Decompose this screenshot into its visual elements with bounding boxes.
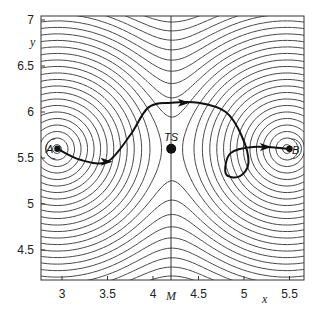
- contour-chart: 33.544.555.54.555.566.57 y x M A TS B: [0, 0, 319, 314]
- x-tick-label: 4.5: [190, 287, 207, 301]
- x-tick-label: 4: [150, 287, 157, 301]
- x-tick-label: 3: [59, 287, 66, 301]
- y-tick-label: 6: [27, 105, 34, 119]
- m-tick-label: M: [165, 289, 177, 303]
- y-tick-label: 7: [27, 13, 34, 27]
- y-axis-title: y: [29, 35, 36, 49]
- point-ts-label: TS: [164, 131, 179, 143]
- y-tick-label: 4.5: [17, 243, 34, 257]
- point-a: [54, 146, 60, 152]
- point-b-label: B: [292, 144, 299, 156]
- x-tick-label: 3.5: [99, 287, 116, 301]
- y-tick-label: 5.5: [17, 151, 34, 165]
- x-axis-title: x: [261, 292, 268, 306]
- point-ts: [166, 144, 176, 154]
- x-tick-label: 5: [241, 287, 248, 301]
- y-tick-label: 6.5: [17, 59, 34, 73]
- x-tick-label: 5.5: [281, 287, 298, 301]
- point-a-label: A: [45, 143, 53, 155]
- y-tick-label: 5: [27, 197, 34, 211]
- trajectory-arrows: [101, 99, 272, 166]
